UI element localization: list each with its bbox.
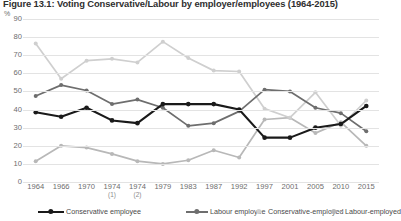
gridline xyxy=(23,55,379,56)
y-axis-tick-label: 80 xyxy=(14,33,22,41)
data-point xyxy=(339,111,343,115)
x-axis-tick-label: 1974 xyxy=(104,182,121,191)
y-axis-tick-label: 30 xyxy=(14,124,22,132)
data-point xyxy=(237,156,241,160)
y-axis-tick-label: 60 xyxy=(14,70,22,78)
data-point xyxy=(186,56,190,60)
x-axis-tick-note: (2) xyxy=(134,191,142,198)
x-axis-tick-label: 1970 xyxy=(78,182,95,191)
chart-legend: Conservative employeeLabour employeeCons… xyxy=(0,205,388,221)
y-axis-tick-label: 10 xyxy=(14,160,22,168)
x-axis-tick-label: 2005 xyxy=(307,182,324,191)
data-point xyxy=(212,148,216,152)
data-point xyxy=(110,102,114,106)
data-point xyxy=(34,41,38,45)
data-point xyxy=(364,129,368,133)
y-axis-tick-label: 0 xyxy=(18,178,22,186)
y-axis-tick-label: 70 xyxy=(14,51,22,59)
x-axis-tick-label: 1992 xyxy=(231,182,248,191)
x-axis-tick-label: 1997 xyxy=(256,182,273,191)
data-point xyxy=(364,99,368,103)
y-axis-tick-label: 20 xyxy=(14,142,22,150)
data-point xyxy=(59,77,63,81)
gridline xyxy=(23,19,379,20)
data-point xyxy=(110,118,115,123)
gridline xyxy=(23,164,379,165)
data-point xyxy=(339,122,344,127)
data-point xyxy=(263,118,267,122)
x-axis-tick-label: 1979 xyxy=(154,182,171,191)
x-axis-tick-label: 2010 xyxy=(332,182,349,191)
data-point xyxy=(212,69,216,73)
x-axis-tick-label: 2001 xyxy=(282,182,299,191)
plot-area xyxy=(23,19,379,182)
y-axis: 9080706050403020100 xyxy=(0,0,22,221)
data-point xyxy=(59,115,64,120)
data-point xyxy=(135,121,140,126)
y-axis-tick-label: 50 xyxy=(14,88,22,96)
data-point xyxy=(288,135,293,140)
x-axis-tick-label: 1983 xyxy=(180,182,197,191)
gridline xyxy=(23,146,379,147)
data-point xyxy=(59,83,63,87)
data-point xyxy=(161,40,165,44)
data-point xyxy=(161,102,166,107)
data-point xyxy=(288,116,292,120)
data-point xyxy=(313,131,317,135)
x-axis-tick-label: 1974 xyxy=(129,182,146,191)
data-point xyxy=(110,57,114,61)
gridline xyxy=(23,91,379,92)
data-point xyxy=(34,94,38,98)
x-axis-tick-label: 2015 xyxy=(358,182,375,191)
data-point xyxy=(211,102,216,107)
data-point xyxy=(85,59,89,63)
chart-svg xyxy=(23,19,379,182)
data-point xyxy=(33,110,38,115)
legend-item[interactable]: Conservative employee xyxy=(38,207,141,216)
data-point xyxy=(135,98,139,102)
series-conservative-employed xyxy=(34,40,369,128)
data-point xyxy=(186,158,190,162)
legend-item[interactable]: Labour-employed xyxy=(325,207,401,216)
data-point xyxy=(364,104,369,109)
legend-swatch xyxy=(38,208,64,216)
y-axis-tick-label: 90 xyxy=(14,15,22,23)
series-labour-employed xyxy=(34,116,369,166)
data-point xyxy=(110,152,114,156)
gridline xyxy=(23,110,379,111)
x-axis-tick-label: 1964 xyxy=(27,182,44,191)
legend-swatch xyxy=(252,208,266,216)
legend-swatch xyxy=(325,208,343,216)
gridline xyxy=(23,128,379,129)
x-axis-tick-note: (1) xyxy=(108,191,116,198)
data-point xyxy=(212,121,216,125)
legend-label: Labour-employed xyxy=(345,207,401,216)
figure-title: Figure 13.1: Voting Conservative/Labour … xyxy=(3,0,395,11)
data-point xyxy=(135,159,139,163)
data-point xyxy=(34,159,38,163)
data-point xyxy=(135,60,139,64)
data-point xyxy=(186,102,191,107)
x-axis-tick-label: 1966 xyxy=(53,182,70,191)
legend-label: Conservative employee xyxy=(66,207,141,216)
x-axis-tick-label: 1987 xyxy=(205,182,222,191)
data-point xyxy=(262,135,267,140)
legend-swatch xyxy=(186,208,208,216)
gridline xyxy=(23,73,379,74)
y-axis-tick-label: 40 xyxy=(14,106,22,114)
gridline xyxy=(23,37,379,38)
